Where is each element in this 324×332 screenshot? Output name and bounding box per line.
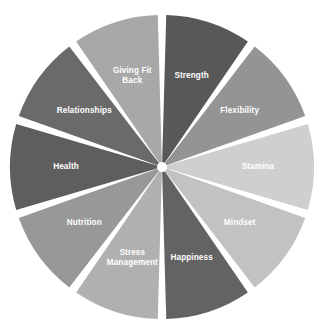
- pie-slice-label-nutrition: Nutrition: [67, 219, 102, 228]
- wellness-wheel-chart: StrengthFlexibilityStaminaMindsetHappine…: [0, 0, 324, 332]
- pie-slice-label-mindset: Mindset: [224, 219, 256, 228]
- pie-slice-label-happiness: Happiness: [171, 253, 214, 262]
- pie-slice-label-health: Health: [53, 162, 79, 171]
- pie-slice-label-strength: Strength: [174, 71, 208, 80]
- pie-chart-svg: StrengthFlexibilityStaminaMindsetHappine…: [0, 0, 324, 332]
- pie-slice-label-flexibility: Flexibility: [220, 106, 259, 115]
- pie-slice-label-relationships: Relationships: [57, 106, 112, 115]
- pie-slice-label-stamina: Stamina: [242, 162, 275, 171]
